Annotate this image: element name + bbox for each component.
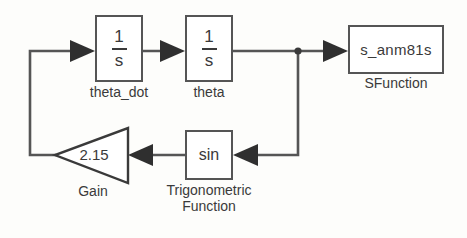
sfunction-text: s_anm81s [360, 41, 432, 58]
integrator-denominator: s [205, 52, 214, 70]
block-trigonometric-function[interactable]: sin [185, 130, 233, 180]
arrowhead-into-sin [233, 144, 258, 166]
integrator-denominator: s [115, 52, 124, 70]
fraction-bar [202, 48, 217, 50]
block-sfunction[interactable]: s_anm81s [348, 25, 444, 74]
block-theta[interactable]: 1 s [185, 15, 233, 82]
label-theta: theta [163, 85, 255, 101]
label-sfunction: SFunction [344, 76, 448, 92]
integrator-numerator: 1 [114, 28, 123, 46]
arrowhead-into-theta [160, 40, 185, 62]
arrowhead-into-gain [128, 144, 153, 166]
label-theta-dot: theta_dot [68, 85, 170, 101]
signal-junction-dot [294, 47, 301, 54]
trig-function-text: sin [199, 146, 219, 164]
block-theta-dot[interactable]: 1 s [95, 15, 143, 82]
label-trigonometric-function: Trigonometric Function [154, 183, 264, 214]
integrator-numerator: 1 [204, 28, 213, 46]
fraction-bar [112, 48, 127, 50]
label-gain: Gain [58, 184, 128, 200]
wire-junction-to-sin [241, 51, 298, 155]
arrowhead-into-theta-dot [70, 40, 95, 62]
gain-value[interactable]: 2.15 [68, 146, 120, 163]
arrowhead-into-sfunction [323, 40, 348, 62]
block-diagram-canvas: 1 s theta_dot 1 s theta s_anm81s SFuncti… [0, 0, 467, 238]
integrator-fraction: 1 s [202, 28, 217, 70]
wire-feedback-to-theta-dot [30, 51, 88, 155]
integrator-fraction: 1 s [112, 28, 127, 70]
